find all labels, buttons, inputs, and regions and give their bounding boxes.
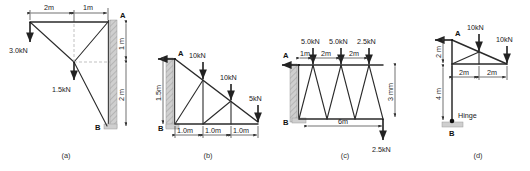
- load-label-10kn-b-1: 10kN: [189, 51, 206, 60]
- caption-d: (d): [473, 151, 482, 160]
- node-label-a-top: A: [120, 11, 126, 20]
- figure-sheet: 3.0kN 1.5kN A B 2m 1m 1 m 2 m (a): [0, 0, 530, 171]
- caption-b: (b): [203, 151, 212, 160]
- load-label-3kn-a: 3.0kN: [9, 46, 28, 55]
- wall-support-a: [110, 20, 117, 128]
- dim-label-1m-b-3: 1.0m: [233, 126, 249, 135]
- diagonal-member-d: [452, 52, 479, 64]
- panel-d: A B 10kN 10kN 2 m 4 m 2m 2m Hinge (d): [434, 23, 513, 160]
- load-label-1p5kn-a: 1.5kN: [52, 85, 71, 94]
- load-label-10kn-d-2: 10kN: [496, 35, 513, 44]
- wall-support-c: [290, 64, 297, 122]
- panel-b: A B 10kN 10kN 5kN 1.5m 1.0m 1.0m 1.0m (b…: [154, 49, 262, 160]
- load-label-5kn-b: 5kN: [249, 94, 262, 103]
- diagonal-member-b-2: [203, 101, 231, 124]
- caption-a: (a): [61, 151, 70, 160]
- node-label-a-b: A: [178, 49, 184, 58]
- node-label-b-bottom: B: [95, 123, 101, 132]
- dim-label-2m-d-1: 2m: [459, 68, 469, 77]
- hinge-label: Hinge: [458, 111, 477, 120]
- dim-label-2m-c-2: 2m: [349, 49, 359, 58]
- load-label-5kn-c-2: 5.0kN: [329, 37, 348, 46]
- load-label-5kn-c-1: 5.0kN: [301, 37, 320, 46]
- dim-label-2m-a: 2m: [44, 3, 54, 12]
- diagonal-member-c-4: [341, 65, 355, 119]
- diagonal-member-b-1: [175, 80, 203, 124]
- diagonal-member-c-3: [327, 65, 341, 119]
- dim-label-1p5m-b: 1.5m: [154, 85, 163, 101]
- dim-label-2m-vert-a: 2 m: [117, 89, 126, 101]
- load-label-2p5kn-c-2: 2.5kN: [372, 145, 391, 154]
- dim-label-4m-vert-d: 4 m: [434, 88, 443, 100]
- dim-label-1m-vert-a: 1 m: [117, 38, 126, 50]
- caption-c: (c): [341, 151, 350, 160]
- hinge-icon: [450, 119, 455, 124]
- dim-label-1m-b-1: 1.0m: [177, 126, 193, 135]
- node-label-a-d: A: [455, 29, 461, 38]
- dim-label-1m-a: 1m: [83, 3, 93, 12]
- panel-a: 3.0kN 1.5kN A B 2m 1m 1 m 2 m (a): [9, 3, 126, 160]
- diagonal-lower-a: [74, 62, 107, 126]
- diagonal-left-a: [30, 22, 74, 62]
- panel-c: A B 5.0kN 5.0kN 2.5kN 2.5kN 1m 2m 2m 6m …: [282, 37, 395, 160]
- diagonal-upper-a: [74, 22, 108, 62]
- diagonal-member-c-2: [313, 65, 327, 119]
- dim-label-2m-d-2: 2m: [487, 68, 497, 77]
- node-label-a-c: A: [283, 51, 289, 60]
- dim-label-2m-c-1: 2m: [321, 49, 331, 58]
- dim-label-3mm-c: 3 mm: [386, 83, 395, 101]
- diagonal-member-c-1: [299, 65, 313, 119]
- dim-label-1m-c: 1m: [300, 49, 310, 58]
- load-label-2p5kn-c-1: 2.5kN: [357, 37, 376, 46]
- node-label-b-d: B: [449, 129, 455, 138]
- dim-label-1m-b-2: 1.0m: [205, 126, 221, 135]
- wall-support-b: [166, 58, 173, 128]
- diagonal-member-c-5: [355, 65, 369, 119]
- load-label-10kn-d-1: 10kN: [467, 23, 484, 32]
- load-label-10kn-b-2: 10kN: [220, 73, 237, 82]
- node-label-b-b: B: [158, 124, 164, 133]
- node-label-b-c: B: [283, 118, 289, 127]
- dim-label-2m-vert-d: 2 m: [434, 46, 443, 58]
- diagonal-member-c-6: [369, 65, 383, 119]
- dim-label-6m-c: 6m: [338, 117, 348, 126]
